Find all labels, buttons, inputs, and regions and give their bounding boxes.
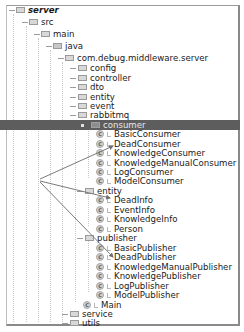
visibility-icon xyxy=(107,274,111,279)
visibility-icon xyxy=(107,161,111,166)
visibility-icon xyxy=(107,284,111,289)
tree-node-label: ModelPublisher xyxy=(114,290,179,300)
tree-node-rabbitmq[interactable]: rabbitmq xyxy=(0,110,240,120)
module-folder-icon xyxy=(16,7,25,13)
tree-node-label: com.debug.middleware.server xyxy=(77,53,208,63)
tree-node-dto[interactable]: dto xyxy=(0,82,240,92)
tree-node-utils[interactable]: utils xyxy=(0,318,240,328)
tree-node-main[interactable]: main xyxy=(0,29,240,39)
visibility-icon xyxy=(107,265,111,270)
package-icon xyxy=(70,311,79,317)
visibility-icon xyxy=(107,246,111,251)
tree-node-src[interactable]: src xyxy=(0,17,240,27)
collapse-icon[interactable] xyxy=(46,46,52,47)
visibility-icon xyxy=(107,151,111,156)
package-icon xyxy=(65,55,74,61)
folder-icon xyxy=(41,31,50,37)
class-icon: C xyxy=(96,215,104,223)
expand-icon[interactable] xyxy=(70,68,76,69)
collapse-icon[interactable] xyxy=(9,10,15,11)
package-icon xyxy=(78,75,87,81)
collapse-icon[interactable] xyxy=(58,58,64,59)
tree-node-config[interactable]: config xyxy=(0,63,240,73)
package-icon xyxy=(70,320,79,326)
tree-node-package[interactable]: com.debug.middleware.server xyxy=(0,53,240,63)
tree-node-label: rabbitmq xyxy=(90,110,129,120)
class-icon: C xyxy=(96,244,104,252)
tree-node-label: DeadInfo xyxy=(114,195,153,205)
class-icon: C xyxy=(96,272,104,280)
tree-node-java[interactable]: java xyxy=(0,41,240,51)
tree-node-class[interactable]: C DeadPublisher xyxy=(0,252,240,262)
tree-node-label: KnowledgeConsumer xyxy=(114,148,205,158)
class-icon: C xyxy=(96,177,104,185)
collapse-icon[interactable] xyxy=(70,115,76,116)
class-icon: C xyxy=(96,159,104,167)
tree-node-class[interactable]: C DeadInfo xyxy=(0,195,240,205)
collapse-icon[interactable] xyxy=(77,191,83,192)
collapse-icon[interactable] xyxy=(81,124,84,127)
package-icon xyxy=(78,94,87,100)
visibility-icon xyxy=(107,198,111,203)
source-folder-icon xyxy=(53,43,62,49)
tree-node-label: src xyxy=(41,17,54,27)
tree-node-label: DeadPublisher xyxy=(114,252,176,262)
tree-node-label: publisher xyxy=(97,233,137,243)
class-icon: C xyxy=(96,196,104,204)
tree-node-class[interactable]: C ModelPublisher xyxy=(0,290,240,300)
class-icon: C xyxy=(96,149,104,157)
tree-node-label: main xyxy=(53,29,74,39)
visibility-icon xyxy=(107,293,111,298)
visibility-icon xyxy=(107,170,111,175)
package-icon xyxy=(85,235,94,241)
collapse-icon[interactable] xyxy=(22,22,28,23)
class-icon: C xyxy=(96,282,104,290)
visibility-icon xyxy=(107,179,111,184)
collapse-icon[interactable] xyxy=(34,34,40,35)
tree-node-class[interactable]: C KnowledgeInfo xyxy=(0,214,240,224)
tree-node-label: KnowledgeInfo xyxy=(114,214,178,224)
tree-node-label: utils xyxy=(82,318,100,328)
expand-icon[interactable] xyxy=(62,323,68,324)
tree-node-label: java xyxy=(65,41,83,51)
visibility-icon xyxy=(107,217,111,222)
expand-icon[interactable] xyxy=(62,314,68,315)
visibility-icon xyxy=(107,132,111,137)
expand-icon[interactable] xyxy=(70,87,76,88)
package-icon xyxy=(78,112,87,118)
collapse-icon[interactable] xyxy=(77,238,83,239)
visibility-icon xyxy=(107,227,111,232)
package-icon xyxy=(78,65,87,71)
package-icon xyxy=(78,84,87,90)
tree-node-publisher[interactable]: publisher xyxy=(0,233,240,243)
class-icon: C xyxy=(96,140,104,148)
package-icon xyxy=(78,103,87,109)
tree-node-class[interactable]: C ModelConsumer xyxy=(0,176,240,186)
class-icon: C xyxy=(96,130,104,138)
class-icon: C xyxy=(96,291,104,299)
visibility-icon xyxy=(94,303,98,308)
tree-node-server[interactable]: server xyxy=(0,5,240,15)
tree-node-class[interactable]: C KnowledgeConsumer xyxy=(0,148,240,158)
folder-icon xyxy=(29,19,38,25)
class-icon: C xyxy=(96,225,104,233)
tree-node-class[interactable]: C BasicConsumer xyxy=(0,129,240,139)
expand-icon[interactable] xyxy=(70,78,76,79)
class-icon: C xyxy=(96,263,104,271)
tree-node-label: ModelConsumer xyxy=(114,176,184,186)
visibility-icon xyxy=(107,255,111,260)
expand-icon[interactable] xyxy=(70,106,76,107)
tree-node-label: server xyxy=(28,5,59,15)
tree-node-label: dto xyxy=(90,82,104,92)
class-icon: C xyxy=(96,253,104,261)
tree-node-label: BasicConsumer xyxy=(114,129,181,139)
package-icon xyxy=(85,188,94,194)
class-icon: C xyxy=(96,168,104,176)
expand-icon[interactable] xyxy=(70,97,76,98)
visibility-icon xyxy=(107,208,111,213)
class-icon: C xyxy=(96,206,104,214)
tree-node-label: config xyxy=(90,63,116,73)
tree-node-class[interactable]: C KnowledgePublisher xyxy=(0,271,240,281)
package-icon xyxy=(91,122,100,128)
visibility-icon xyxy=(107,142,111,147)
